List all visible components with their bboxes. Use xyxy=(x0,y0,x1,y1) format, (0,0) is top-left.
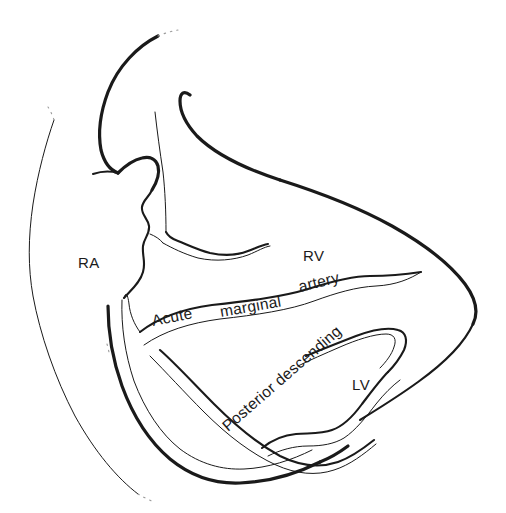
label-right-ventricle: RV xyxy=(303,247,324,264)
anatomical-figure: RA RV LV Acute marginal artery Posterior… xyxy=(0,0,506,513)
figure-background xyxy=(0,0,506,513)
label-left-ventricle: LV xyxy=(352,376,370,393)
label-right-atrium: RA xyxy=(78,254,100,271)
heart-diagram-canvas: RA RV LV Acute marginal artery Posterior… xyxy=(0,0,506,513)
